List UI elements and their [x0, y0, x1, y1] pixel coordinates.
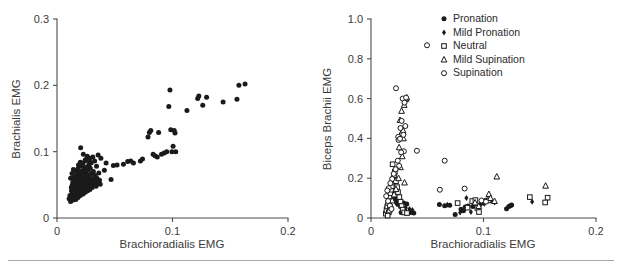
- data-point: [148, 128, 153, 133]
- x-tick-label: 0.2: [588, 225, 603, 237]
- data-point: [78, 145, 83, 150]
- data-point: [96, 170, 101, 175]
- data-point: [391, 171, 396, 176]
- data-point: [403, 124, 408, 129]
- data-point: [404, 95, 409, 100]
- series-mild-supination: [386, 95, 548, 213]
- data-point: [404, 202, 409, 207]
- data-point: [528, 195, 533, 200]
- data-point: [146, 135, 151, 140]
- x-tick-label: 0.2: [280, 225, 295, 237]
- series-all-trials: [67, 82, 248, 204]
- data-point: [85, 154, 90, 159]
- data-point: [543, 200, 548, 205]
- y-tick-label: 0.6: [348, 93, 363, 105]
- data-point: [390, 162, 395, 167]
- data-point: [405, 211, 410, 216]
- data-point: [98, 182, 103, 187]
- data-point: [71, 167, 76, 172]
- right-y-axis-title: Biceps Brachii EMG: [321, 68, 333, 170]
- data-point: [121, 162, 126, 167]
- data-point: [234, 97, 239, 102]
- legend-label: Mild Supination: [453, 53, 525, 65]
- data-point: [236, 83, 241, 88]
- x-tick-label: 0.1: [476, 225, 491, 237]
- data-point: [385, 188, 390, 193]
- data-point: [102, 168, 107, 173]
- data-point: [80, 163, 85, 168]
- data-point: [442, 158, 447, 163]
- data-point: [384, 194, 389, 199]
- data-point: [402, 179, 408, 185]
- data-point: [171, 144, 176, 149]
- data-point: [483, 199, 488, 204]
- legend-marker-open-triangle: [441, 57, 447, 63]
- left-plot-svg: 00.10.200.10.20.3 Brachioradialis EMG Br…: [0, 0, 311, 248]
- data-point: [388, 181, 393, 186]
- data-point: [398, 126, 403, 131]
- data-point: [155, 154, 160, 159]
- legend-label: Pronation: [453, 12, 498, 24]
- data-point: [399, 118, 404, 123]
- data-point: [396, 144, 402, 150]
- left-x-axis-title: Brachioradialis EMG: [120, 238, 225, 248]
- data-point: [140, 156, 145, 161]
- left-y-axis-title: Brachialis EMG: [10, 79, 22, 158]
- data-point: [87, 158, 92, 163]
- data-point: [115, 162, 120, 167]
- data-point: [166, 104, 171, 109]
- y-tick-label: 1.0: [348, 13, 363, 25]
- y-tick-label: 0.3: [34, 13, 49, 25]
- legend-marker-filled-circle: [442, 16, 447, 21]
- data-point: [399, 108, 405, 114]
- legend-label: Neutral: [453, 39, 487, 51]
- data-point: [109, 177, 114, 182]
- data-point: [204, 95, 209, 100]
- y-tick-label: 0: [43, 212, 49, 224]
- legend-marker-filled-diamond: [442, 29, 446, 35]
- data-point: [389, 207, 394, 212]
- data-point: [92, 158, 97, 163]
- data-point: [70, 180, 75, 185]
- data-point: [156, 130, 161, 135]
- data-point: [98, 156, 103, 161]
- data-point: [173, 149, 178, 154]
- data-point: [94, 164, 99, 169]
- data-point: [543, 183, 549, 189]
- data-point: [399, 150, 404, 155]
- y-tick-label: 0.4: [348, 132, 363, 144]
- data-point: [200, 103, 205, 108]
- plot-legend: PronationMild PronationNeutralMild Supin…: [441, 12, 525, 78]
- figure-bottom-rule: [8, 260, 614, 261]
- left-data-points: [67, 82, 248, 204]
- data-point: [477, 210, 482, 215]
- data-point: [173, 131, 178, 136]
- data-point: [494, 174, 500, 180]
- y-tick-label: 0.8: [348, 53, 363, 65]
- data-point: [196, 93, 201, 98]
- data-point: [167, 87, 172, 92]
- legend-marker-open-circle: [442, 71, 447, 76]
- scatter-panel-left: 00.10.200.10.20.3 Brachioradialis EMG Br…: [0, 0, 311, 248]
- scatter-panel-right: 00.10.200.20.40.60.81.0 PronationMild Pr…: [311, 0, 622, 248]
- data-point: [385, 213, 390, 218]
- data-point: [104, 160, 109, 165]
- data-point: [455, 201, 460, 206]
- data-point: [545, 195, 550, 200]
- data-point: [69, 185, 74, 190]
- data-point: [74, 184, 79, 189]
- data-point: [243, 82, 248, 87]
- data-point: [131, 160, 136, 165]
- data-point: [437, 202, 442, 207]
- data-point: [437, 187, 442, 192]
- data-point: [464, 195, 468, 201]
- data-point: [509, 203, 514, 208]
- x-tick-label: 0: [54, 225, 60, 237]
- data-point: [402, 100, 407, 105]
- data-point: [425, 43, 430, 48]
- legend-marker-open-square: [442, 44, 447, 49]
- data-point: [465, 205, 470, 210]
- y-tick-label: 0.2: [34, 79, 49, 91]
- data-point: [393, 86, 398, 91]
- data-point: [221, 99, 226, 104]
